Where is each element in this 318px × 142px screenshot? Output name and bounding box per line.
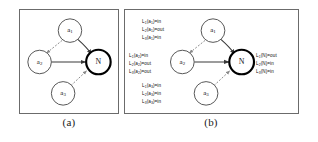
node-a3: a3	[51, 82, 75, 106]
node-a3: a3	[194, 82, 218, 106]
annotation-block-a2: L1(a2)=inL2(a2)=outL3(a2)=out	[129, 52, 151, 76]
node-a2: a2	[28, 50, 52, 74]
edge-a1-a2	[46, 40, 62, 53]
annotation-line-n-1: L1(N)=out	[256, 52, 277, 60]
node-n: N	[86, 50, 111, 75]
annotation-line-a3-2: L2(a3)=in	[142, 90, 161, 98]
panel-a: a1 a2 a3 N	[19, 9, 119, 114]
annotation-line-n-2: L2(N)=in	[256, 60, 277, 68]
edge-a1-n	[221, 39, 235, 54]
node-a1: a1	[201, 19, 225, 43]
annotation-line-a1-1: L1(a1)=in	[142, 18, 164, 26]
annotation-line-a2-1: L1(a2)=in	[129, 52, 151, 60]
node-n: N	[229, 50, 254, 75]
graph-diagram-a: a1 a2 a3 N	[20, 10, 118, 113]
annotation-block-a3: L1(a3)=inL2(a3)=inL3(a3)=in	[142, 82, 161, 106]
annotation-block-a1: L1(a1)=inL2(a1)=outL3(a1)=in	[142, 18, 164, 42]
panel-a-caption: (a)	[49, 116, 89, 128]
annotation-block-n: L1(N)=outL2(N)=inL3(N)=in	[256, 52, 277, 76]
node-a2: a2	[170, 50, 194, 74]
annotation-line-a3-1: L1(a3)=in	[142, 82, 161, 90]
annotation-line-n-3: L3(N)=in	[256, 68, 277, 76]
annotation-line-a1-3: L3(a1)=in	[142, 34, 164, 42]
annotation-line-a3-3: L3(a3)=in	[142, 98, 161, 106]
edge-a1-n	[78, 39, 92, 54]
edge-a1-a2	[189, 40, 205, 53]
edge-a3-n	[71, 71, 87, 86]
annotation-line-a2-2: L2(a2)=out	[129, 60, 151, 68]
figure-root: a1 a2 a3 N (a)	[0, 0, 318, 142]
annotation-line-a1-2: L2(a1)=out	[142, 26, 164, 34]
panel-b-caption: (b)	[191, 116, 231, 128]
annotation-line-a2-3: L3(a2)=out	[129, 68, 151, 76]
edge-a3-n	[214, 71, 230, 86]
node-n-label: N	[239, 57, 245, 66]
node-n-label: N	[96, 57, 102, 66]
node-a1: a1	[58, 19, 82, 43]
